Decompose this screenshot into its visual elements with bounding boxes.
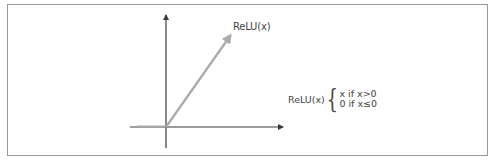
formula-cases: x if x>0 0 if x≤0 xyxy=(339,89,377,109)
relu-formula: ReLU(x) { x if x>0 0 if x≤0 xyxy=(288,89,377,109)
formula-function-name: ReLU(x) xyxy=(288,94,325,105)
relu-curve-label: ReLU(x) xyxy=(233,21,270,32)
formula-case-nonpositive: 0 if x≤0 xyxy=(339,99,377,109)
relu-positive-segment xyxy=(166,36,230,127)
curly-brace-icon: { xyxy=(326,89,338,109)
